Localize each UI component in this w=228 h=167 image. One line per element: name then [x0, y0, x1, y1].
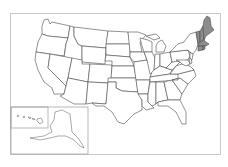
contiguous-us	[35, 16, 214, 124]
inset-area	[11, 107, 88, 154]
state-new-york[interactable]	[170, 32, 198, 54]
state-north-dakota[interactable]	[106, 31, 130, 44]
state-new-mexico[interactable]	[86, 82, 108, 104]
us-map	[0, 0, 228, 167]
state-florida[interactable]	[158, 100, 186, 124]
state-arkansas[interactable]	[136, 80, 150, 94]
state-kansas[interactable]	[111, 66, 136, 78]
us-map-svg	[0, 0, 228, 167]
inset-frame	[11, 107, 88, 154]
state-mississippi[interactable]	[148, 82, 156, 106]
state-hawaii[interactable]	[17, 115, 43, 124]
state-montana[interactable]	[74, 27, 108, 48]
state-rhode-island[interactable]	[203, 46, 205, 50]
state-wyoming[interactable]	[82, 46, 106, 64]
state-maine[interactable]	[203, 16, 214, 40]
state-connecticut[interactable]	[198, 46, 203, 51]
state-alaska[interactable]	[30, 110, 84, 148]
